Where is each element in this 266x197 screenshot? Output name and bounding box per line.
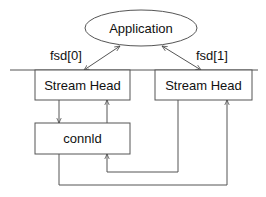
stream-head-1-label: Stream Head bbox=[165, 78, 242, 93]
fsd0-label: fsd[0] bbox=[50, 48, 82, 63]
connld-node: connld bbox=[35, 123, 130, 154]
stream-head-0-label: Stream Head bbox=[44, 78, 121, 93]
stream-head-1-node: Stream Head bbox=[155, 70, 252, 100]
fsd1-label: fsd[1] bbox=[196, 48, 228, 63]
connld-label: connld bbox=[63, 131, 101, 146]
application-label: Application bbox=[109, 21, 173, 36]
stream-diagram: Application fsd[0] fsd[1] Stream Head St… bbox=[0, 0, 266, 197]
stream-head-0-node: Stream Head bbox=[35, 70, 130, 100]
fsd0-arrow bbox=[84, 46, 120, 70]
application-node: Application bbox=[85, 10, 197, 46]
